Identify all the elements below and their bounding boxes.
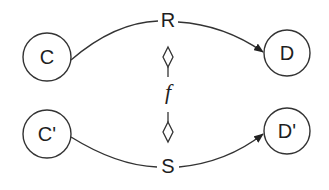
node-c: C [23,33,71,81]
node-d-label: D [280,42,294,64]
edge-label-r: R [161,9,175,31]
edge-s-arc-left [71,137,157,167]
node-c-prime-label: C' [38,123,56,145]
node-c-prime: C' [23,110,71,158]
edge-label-s: S [161,155,174,177]
diamond-marker-top-icon [163,47,173,67]
mapping-label-f: f [165,79,174,104]
node-d-prime: D' [264,108,310,154]
node-c-label: C [40,46,54,68]
node-d-prime-label: D' [278,120,296,142]
edge-s-arc-right [179,134,263,167]
node-d: D [264,30,310,76]
diagram-canvas: R S f C D C' D' [0,0,329,190]
edge-r-arc-right [178,22,263,52]
diamond-marker-bottom-icon [163,122,173,142]
edge-r-arc-left [71,21,158,60]
